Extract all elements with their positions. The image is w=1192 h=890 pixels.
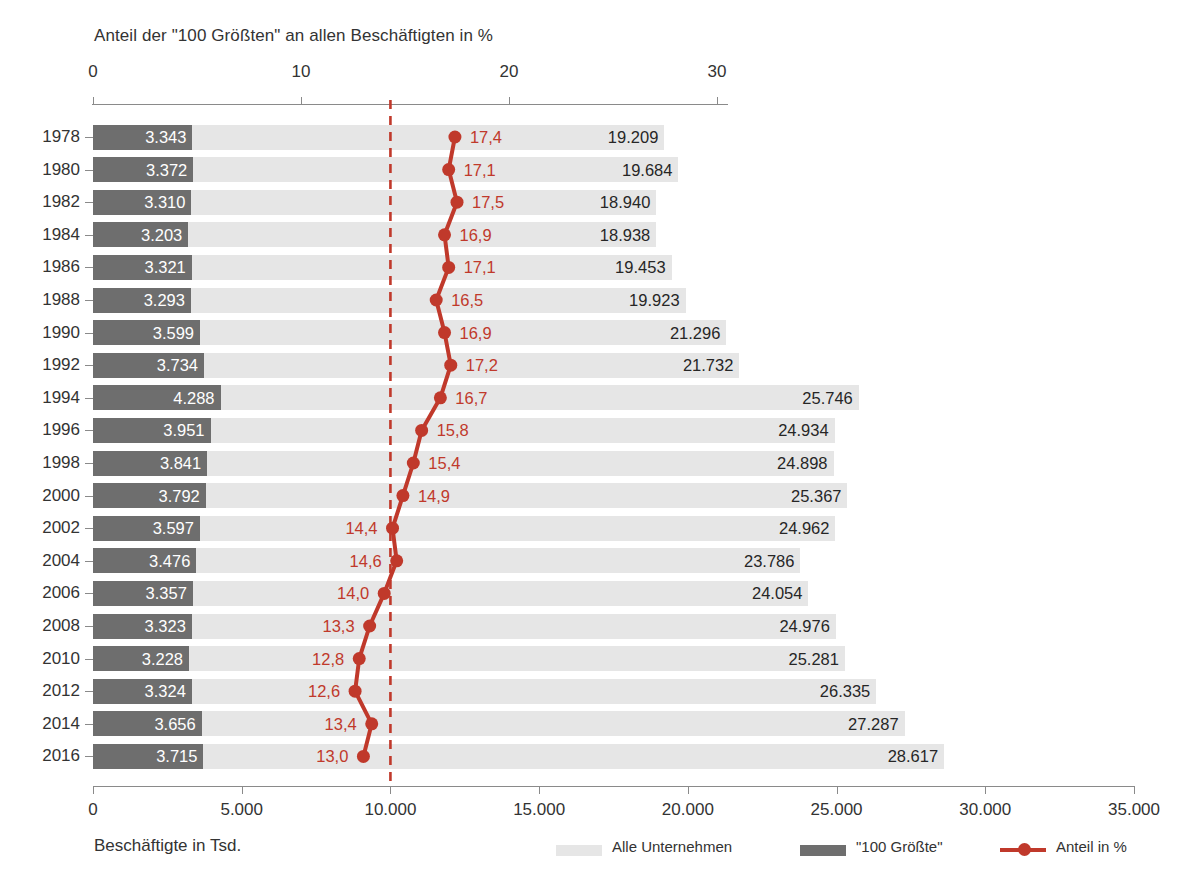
- legend-swatch-icon: [800, 845, 846, 856]
- bar-all-companies-value: 18.938: [560, 225, 650, 244]
- bar-all-companies[interactable]: [93, 483, 847, 508]
- bar-top-100-value: 3.321: [93, 258, 186, 277]
- bar-all-companies-value: 21.732: [643, 356, 733, 375]
- legend-label: Alle Unternehmen: [612, 838, 732, 855]
- bar-top-100-value: 3.792: [93, 486, 200, 505]
- bar-top-100-value: 3.357: [93, 584, 187, 603]
- share-percent-label: 12,6: [308, 682, 340, 701]
- share-percent-label: 14,4: [345, 519, 377, 538]
- category-label-1980: 1980: [20, 160, 80, 180]
- bar-all-companies-value: 19.923: [590, 291, 680, 310]
- category-label-1978: 1978: [20, 127, 80, 147]
- share-percent-label: 14,9: [418, 486, 450, 505]
- bar-all-companies[interactable]: [93, 581, 808, 606]
- y-axis-tick-mark: [85, 593, 93, 594]
- bottom-axis-tick-label: 35.000: [1108, 800, 1160, 820]
- bar-top-100-value: 3.372: [93, 160, 187, 179]
- share-percent-label: 14,6: [350, 551, 382, 570]
- y-axis-tick-mark: [85, 235, 93, 236]
- share-percent-label: 15,8: [437, 421, 469, 440]
- category-label-1988: 1988: [20, 290, 80, 310]
- category-label-2014: 2014: [20, 714, 80, 734]
- category-label-1984: 1984: [20, 225, 80, 245]
- category-label-1994: 1994: [20, 388, 80, 408]
- legend-label: "100 Größte": [856, 838, 943, 855]
- bottom-axis-tick-mark: [390, 786, 391, 794]
- category-label-2016: 2016: [20, 746, 80, 766]
- bottom-axis-tick-mark: [688, 786, 689, 794]
- bar-all-companies-value: 18.940: [560, 193, 650, 212]
- top-axis-line: [92, 104, 728, 105]
- bar-all-companies[interactable]: [93, 614, 836, 639]
- bar-all-companies-value: 23.786: [704, 551, 794, 570]
- bar-all-companies-value: 24.962: [739, 519, 829, 538]
- share-percent-label: 17,1: [464, 160, 496, 179]
- bar-all-companies[interactable]: [93, 516, 835, 541]
- y-axis-tick-mark: [85, 496, 93, 497]
- y-axis-tick-mark: [85, 430, 93, 431]
- bar-top-100-value: 3.323: [93, 617, 186, 636]
- y-axis-tick-mark: [85, 300, 93, 301]
- bar-all-companies[interactable]: [93, 744, 944, 769]
- bar-top-100-value: 3.310: [93, 193, 185, 212]
- bottom-axis-tick-label: 0: [88, 800, 97, 820]
- bar-all-companies-value: 26.335: [780, 682, 870, 701]
- bottom-axis-tick-mark: [242, 786, 243, 794]
- y-axis-tick-mark: [85, 365, 93, 366]
- bottom-axis-label: Beschäftigte in Tsd.: [94, 836, 241, 856]
- category-label-2000: 2000: [20, 486, 80, 506]
- bottom-axis-tick-mark: [539, 786, 540, 794]
- share-percent-label: 16,7: [455, 388, 487, 407]
- category-label-1996: 1996: [20, 420, 80, 440]
- bottom-axis-tick-mark: [837, 786, 838, 794]
- bar-all-companies-value: 24.976: [740, 617, 830, 636]
- bar-all-companies[interactable]: [93, 679, 876, 704]
- share-percent-label: 17,2: [466, 356, 498, 375]
- y-axis-tick-mark: [85, 398, 93, 399]
- bar-top-100-value: 3.951: [93, 421, 205, 440]
- y-axis-tick-mark: [85, 463, 93, 464]
- category-label-2010: 2010: [20, 649, 80, 669]
- top-axis-tick-label: 0: [88, 62, 97, 82]
- bar-top-100-value: 3.476: [93, 551, 190, 570]
- y-axis-tick-mark: [85, 267, 93, 268]
- bar-all-companies[interactable]: [93, 646, 845, 671]
- bar-all-companies-value: 24.898: [738, 454, 828, 473]
- bar-top-100-value: 3.343: [93, 128, 186, 147]
- share-percent-label: 13,3: [323, 617, 355, 636]
- y-axis-tick-mark: [85, 756, 93, 757]
- legend-swatch-icon: [556, 845, 602, 856]
- share-percent-label: 17,4: [470, 128, 502, 147]
- share-percent-label: 17,1: [464, 258, 496, 277]
- bottom-axis-tick-mark: [93, 786, 94, 794]
- bar-all-companies[interactable]: [93, 548, 800, 573]
- bar-all-companies-value: 25.367: [751, 486, 841, 505]
- bar-top-100-value: 3.203: [93, 225, 182, 244]
- bottom-axis-tick-label: 10.000: [364, 800, 416, 820]
- bar-all-companies-value: 25.746: [763, 388, 853, 407]
- top-axis-tick-label: 30: [708, 62, 727, 82]
- legend-dot-icon: [1018, 843, 1031, 856]
- y-axis-tick-mark: [85, 137, 93, 138]
- bar-top-100-value: 3.293: [93, 291, 185, 310]
- bar-all-companies-value: 28.617: [848, 747, 938, 766]
- share-percent-label: 13,4: [325, 714, 357, 733]
- share-percent-label: 14,0: [337, 584, 369, 603]
- category-label-1992: 1992: [20, 355, 80, 375]
- bottom-axis-tick-mark: [985, 786, 986, 794]
- category-label-2006: 2006: [20, 583, 80, 603]
- bar-top-100-value: 3.228: [93, 649, 183, 668]
- bar-all-companies-value: 19.209: [568, 128, 658, 147]
- bar-all-companies-value: 24.054: [712, 584, 802, 603]
- bottom-axis-line: [93, 786, 1134, 787]
- category-label-1982: 1982: [20, 192, 80, 212]
- bar-all-companies[interactable]: [93, 711, 905, 736]
- y-axis-tick-mark: [85, 724, 93, 725]
- y-axis-tick-mark: [85, 691, 93, 692]
- bottom-axis-tick-mark: [1134, 786, 1135, 794]
- share-percent-label: 17,5: [472, 193, 504, 212]
- y-axis-tick-mark: [85, 202, 93, 203]
- bar-top-100-value: 3.656: [93, 714, 196, 733]
- y-axis-tick-mark: [85, 528, 93, 529]
- bar-top-100-value: 3.734: [93, 356, 198, 375]
